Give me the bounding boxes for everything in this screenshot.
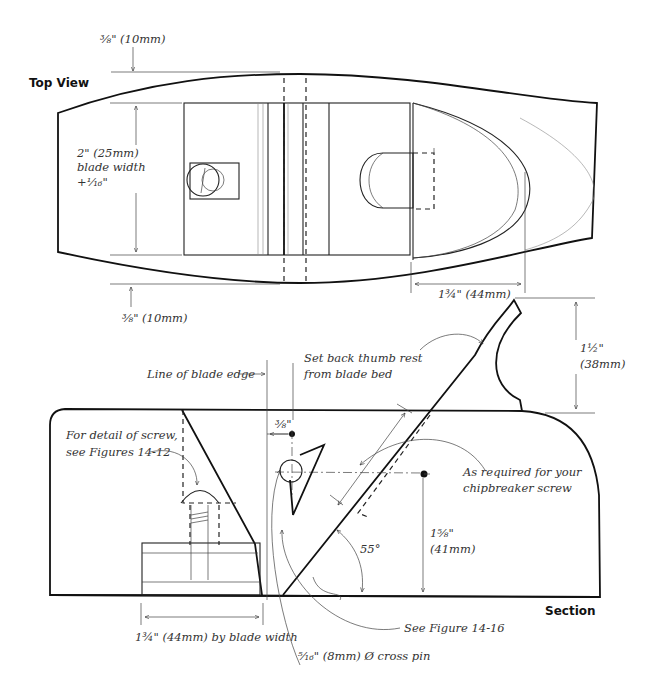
bed-angle-label: 55° (360, 542, 380, 556)
pin-offset-label: ⅜" (275, 417, 291, 431)
thumb-rest-knob-edge (369, 153, 383, 208)
front-outer-curve (520, 118, 594, 250)
see-figure-leader (282, 530, 400, 630)
screw-threads (191, 512, 208, 523)
cross-pin-icon (280, 460, 302, 482)
wedge-length-label: 1¾" (44mm) by blade width (135, 630, 298, 644)
blade-width-label-1: 2" (25mm) (76, 146, 139, 160)
top-view-title: Top View (29, 76, 89, 90)
screw-head-inner (202, 169, 224, 191)
pin-height-label-2: (41mm) (430, 542, 475, 556)
wedge-triangle (290, 445, 324, 515)
bottom-margin-label: ⅜" (10mm) (122, 311, 188, 325)
top-view-body-outline (58, 74, 597, 283)
thumb-height-label-1: 1½" (580, 341, 604, 355)
thumb-rest-leader (420, 334, 483, 350)
front-horn-curve (413, 103, 530, 258)
section-view-title: Section (545, 604, 596, 618)
blade-length-arrow (338, 413, 405, 505)
rear-insert-block (142, 543, 260, 595)
chipbreaker-label-1: As required for your (462, 465, 583, 479)
plane-plan-diagram: Top View ⅜" (10mm) 2" (25mm) blade width… (0, 0, 646, 697)
front-length-label: 1¾" (44mm) (438, 287, 511, 301)
pin-height-label-1: 1⅝" (430, 526, 454, 540)
chipbreaker-label-2: chipbreaker screw (463, 481, 572, 495)
screw-slot (201, 168, 205, 193)
sole-line (50, 595, 600, 597)
blade-width-label-3: +¹⁄₁₆" (77, 175, 108, 189)
thumb-rest-knob (360, 153, 413, 208)
screw-detail-label-2: see Figures 14-12 (66, 445, 171, 459)
top-view-center-plate (184, 103, 410, 255)
see-figure-label: See Figure 14-16 (404, 621, 505, 635)
blade-tick (397, 404, 412, 413)
bed-angle-arc (337, 530, 363, 592)
chipbreaker-hidden (358, 415, 430, 517)
front-horn-curve-inner (413, 103, 518, 258)
screw-hole-hidden (183, 410, 236, 503)
thumb-height-label-2: (38mm) (580, 357, 625, 371)
cross-pin-label: ⁵⁄₁₆" (8mm) Ø cross pin (298, 649, 430, 663)
thumb-rest-hidden (413, 153, 434, 209)
blade-width-label-2: blade width (77, 160, 146, 174)
section-view: For detail of screw, see Figures 14-12 L… (50, 298, 625, 665)
thumb-rest-label-1: Set back thumb rest (304, 351, 423, 365)
pin-centerline-h (275, 472, 425, 473)
blade-tick (330, 495, 343, 505)
screw-detail-label-1: For detail of screw, (65, 428, 178, 442)
top-view: Top View ⅜" (10mm) 2" (25mm) blade width… (29, 32, 597, 325)
top-margin-label: ⅜" (10mm) (100, 32, 166, 46)
screw-head-section (181, 491, 219, 504)
thumb-rest-label-2: from blade bed (303, 367, 393, 381)
